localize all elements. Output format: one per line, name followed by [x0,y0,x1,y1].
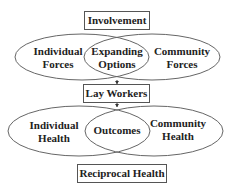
reciprocal-health-box: Reciprocal Health [77,164,167,183]
arrow-head-middle [115,104,119,107]
individual-forces-line2: Forces [30,58,86,71]
involvement-box: Involvement [84,11,150,30]
expanding-options-line2: Options [88,58,146,71]
community-forces-line1: Community [150,45,214,58]
expanding-options-label: Expanding Options [88,45,146,71]
community-health-line1: Community [146,117,210,130]
individual-health-label: Individual Health [24,119,84,145]
community-health-label: Community Health [146,117,210,143]
individual-health-line2: Health [24,132,84,145]
outcomes-label: Outcomes [88,124,146,137]
community-forces-line2: Forces [150,58,214,71]
individual-forces-label: Individual Forces [30,45,86,71]
lay-workers-box: Lay Workers [83,84,150,103]
individual-forces-line1: Individual [30,45,86,58]
individual-health-line1: Individual [24,119,84,132]
community-health-line2: Health [146,130,210,143]
expanding-options-line1: Expanding [88,45,146,58]
community-forces-label: Community Forces [150,45,214,71]
